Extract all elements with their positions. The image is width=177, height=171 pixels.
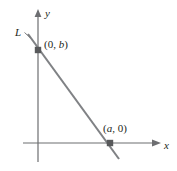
- y-axis-label: y: [45, 8, 50, 19]
- figure-canvas: [0, 0, 177, 171]
- line-L: [28, 34, 119, 159]
- x-intercept-label: (a, 0): [103, 123, 127, 134]
- x-axis-arrowhead: [152, 140, 161, 147]
- y-intercept-label-prefix: (0,: [44, 38, 59, 50]
- line-L-label: L: [15, 27, 21, 38]
- x-axis-label: x: [164, 140, 169, 151]
- y-axis-arrowhead: [35, 9, 42, 17]
- line-intercepts-figure: y x L (0, b) (a, 0): [0, 0, 177, 171]
- y-intercept-label: (0, b): [44, 39, 68, 50]
- x-intercept-label-suffix: , 0): [112, 122, 127, 134]
- y-intercept-marker: [35, 47, 41, 53]
- y-intercept-label-suffix: ): [64, 38, 68, 50]
- x-intercept-marker: [107, 140, 113, 146]
